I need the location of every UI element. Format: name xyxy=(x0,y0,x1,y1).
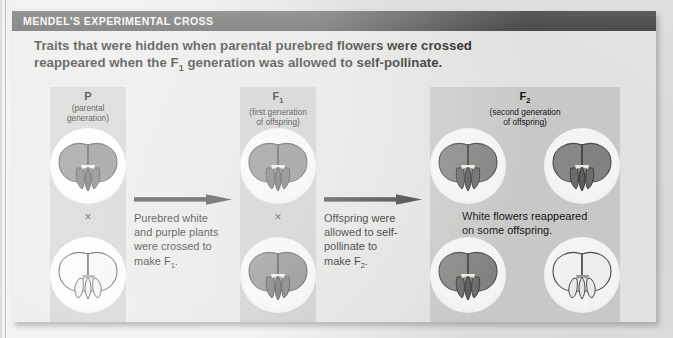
subtitle-line-2-prefix: reappeared when the F xyxy=(34,55,179,70)
pea-flower-purple-icon xyxy=(430,237,506,313)
caption-cross-to-f1: Purebred white and purple plants were cr… xyxy=(134,211,234,273)
caption-3-line-1: White flowers reappeared xyxy=(462,210,587,222)
figure-header-title: MENDEL'S EXPERIMENTAL CROSS xyxy=(23,15,213,27)
pea-flower-white-icon xyxy=(544,237,620,313)
cross-symbol-p: × xyxy=(50,210,126,224)
column-label-f1: F1 (first generation of offspring) xyxy=(240,90,316,128)
column-desc-f1-line2: of offspring) xyxy=(240,117,316,127)
figure-header-bar: MENDEL'S EXPERIMENTAL CROSS xyxy=(12,11,656,31)
column-title-p: P xyxy=(50,90,126,103)
caption-2-line-3: pollinate to xyxy=(324,240,377,252)
caption-1-line-4-suffix: . xyxy=(175,255,178,267)
caption-1-line-2: and purple plants xyxy=(134,226,218,238)
column-title-f2-subscript: 2 xyxy=(526,96,530,105)
column-desc-f2-line1: (second generation xyxy=(430,107,620,117)
caption-2-line-4-prefix: make F xyxy=(324,255,361,267)
caption-2-line-1: Offspring were xyxy=(324,212,395,224)
flower-plate-f1-purple-2 xyxy=(240,237,316,313)
caption-1-line-3: were crossed to xyxy=(134,240,212,252)
flower-plate-f2-purple-2 xyxy=(544,128,620,204)
column-desc-f1-line1: (first generation xyxy=(240,107,316,117)
subtitle-line-1: Traits that were hidden when parental pu… xyxy=(34,38,472,53)
flower-plate-f2-white xyxy=(544,237,620,313)
column-desc-f2-line2: of offspring) xyxy=(430,117,620,127)
page-gutter-rule xyxy=(5,0,6,338)
figure-subtitle: Traits that were hidden when parental pu… xyxy=(34,37,634,77)
pea-flower-purple-icon xyxy=(544,128,620,204)
caption-3-line-2: on some offspring. xyxy=(462,224,552,236)
caption-2-line-4-suffix: . xyxy=(365,255,368,267)
figure-panel: MENDEL'S EXPERIMENTAL CROSS Traits that … xyxy=(12,11,656,322)
cross-symbol-f1: × xyxy=(240,210,316,224)
pea-flower-purple-icon xyxy=(430,128,506,204)
page-edge xyxy=(0,0,2,338)
column-title-f1: F1 xyxy=(240,90,316,107)
caption-2-line-2: allowed to self- xyxy=(324,226,397,238)
pea-flower-purple-icon xyxy=(240,128,316,204)
subtitle-line-2-suffix: generation was allowed to self-pollinate… xyxy=(184,55,443,70)
column-label-p: P (parental generation) xyxy=(50,90,126,123)
caption-1-line-4-prefix: make F xyxy=(134,255,171,267)
pea-flower-white-icon xyxy=(50,237,126,313)
arrow-right-icon xyxy=(134,194,232,205)
arrow-right-icon xyxy=(324,194,422,205)
flower-plate-p-white xyxy=(50,237,126,313)
pea-flower-purple-icon xyxy=(240,237,316,313)
column-title-f1-subscript: 1 xyxy=(279,96,283,105)
column-title-f2: F2 xyxy=(430,90,620,107)
flower-plate-f2-purple-1 xyxy=(430,128,506,204)
flower-plate-f2-purple-3 xyxy=(430,237,506,313)
flower-plate-p-purple xyxy=(50,128,126,204)
caption-f2-result: White flowers reappeared on some offspri… xyxy=(462,209,637,237)
flower-plate-f1-purple-1 xyxy=(240,128,316,204)
column-label-f2: F2 (second generation of offspring) xyxy=(430,90,620,128)
caption-1-line-1: Purebred white xyxy=(134,212,208,224)
caption-self-pollinate-to-f2: Offspring were allowed to self- pollinat… xyxy=(324,211,424,273)
column-desc-p-line1: (parental xyxy=(50,103,126,113)
pea-flower-purple-icon xyxy=(50,128,126,204)
column-desc-p-line2: generation) xyxy=(50,113,126,123)
